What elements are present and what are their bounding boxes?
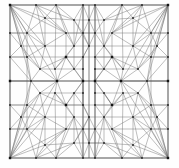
mesh-node bbox=[82, 68, 84, 70]
mesh-node bbox=[82, 32, 84, 34]
mesh-node-hub bbox=[111, 104, 113, 106]
mesh-node bbox=[88, 19, 90, 21]
mesh-node bbox=[20, 45, 22, 47]
mesh-node bbox=[26, 128, 28, 130]
mesh-node bbox=[156, 45, 158, 47]
mesh-node bbox=[94, 92, 96, 94]
mesh-node bbox=[88, 45, 90, 47]
mesh-node bbox=[35, 157, 37, 159]
mesh-node bbox=[39, 92, 41, 94]
mesh-node-hub bbox=[167, 80, 169, 82]
mesh-node-hub bbox=[9, 4, 11, 6]
mesh-node bbox=[141, 4, 143, 6]
mesh-node bbox=[167, 104, 169, 106]
mesh-node bbox=[73, 116, 75, 118]
mesh-node bbox=[9, 56, 11, 58]
mesh-node-hub bbox=[111, 56, 113, 58]
mesh-node bbox=[55, 157, 57, 159]
mesh-node bbox=[103, 92, 105, 94]
mesh-node-hub bbox=[94, 80, 96, 82]
mesh-node-hub bbox=[56, 80, 58, 82]
mesh-node bbox=[26, 32, 28, 34]
mesh-node-hub bbox=[9, 157, 11, 159]
mesh-node bbox=[82, 4, 84, 6]
mesh-node bbox=[54, 92, 56, 94]
mesh-node bbox=[141, 157, 143, 159]
mesh-node bbox=[103, 19, 105, 21]
mesh-node bbox=[35, 4, 37, 6]
mesh-node bbox=[30, 80, 32, 82]
mesh-node bbox=[94, 4, 96, 6]
mesh-node bbox=[82, 157, 84, 159]
mesh-node bbox=[44, 144, 46, 146]
mesh-node bbox=[103, 116, 105, 118]
mesh-node bbox=[73, 19, 75, 21]
mesh-node bbox=[122, 92, 124, 94]
mesh-node bbox=[73, 142, 75, 144]
mesh-node bbox=[82, 104, 84, 106]
mesh-node bbox=[94, 104, 96, 106]
mesh-node bbox=[132, 45, 134, 47]
mesh-node bbox=[146, 80, 148, 82]
mesh-node bbox=[73, 92, 75, 94]
mesh-node bbox=[167, 128, 169, 130]
mesh-node-hub bbox=[167, 157, 169, 159]
mesh-node bbox=[26, 104, 28, 106]
mesh-node bbox=[44, 17, 46, 19]
mesh-node bbox=[39, 68, 41, 70]
mesh-node bbox=[9, 128, 11, 130]
mesh-node bbox=[132, 144, 134, 146]
mesh-node bbox=[94, 32, 96, 34]
mesh-node-hub bbox=[120, 80, 122, 82]
mesh-node bbox=[82, 92, 84, 94]
mesh-node bbox=[82, 128, 84, 130]
mesh-node bbox=[73, 68, 75, 70]
mesh-node bbox=[150, 104, 152, 106]
mesh-node bbox=[94, 157, 96, 159]
mesh-node bbox=[111, 32, 113, 34]
mesh-node bbox=[150, 128, 152, 130]
mesh-node bbox=[121, 4, 123, 6]
mesh-node bbox=[9, 104, 11, 106]
mesh-node bbox=[54, 68, 56, 70]
mesh-node bbox=[65, 128, 67, 130]
mesh-figure bbox=[0, 0, 179, 168]
mesh-node bbox=[156, 116, 158, 118]
mesh-node bbox=[55, 4, 57, 6]
mesh-node bbox=[167, 56, 169, 58]
mesh-node bbox=[103, 68, 105, 70]
mesh-node bbox=[121, 157, 123, 159]
mesh-node bbox=[137, 68, 139, 70]
mesh-node bbox=[44, 116, 46, 118]
mesh-node-hub bbox=[65, 56, 67, 58]
mesh-node bbox=[88, 116, 90, 118]
mesh-node bbox=[103, 142, 105, 144]
mesh-node bbox=[103, 45, 105, 47]
mesh-node bbox=[132, 17, 134, 19]
mesh-node bbox=[137, 92, 139, 94]
mesh-node-hub bbox=[167, 4, 169, 6]
mesh-node bbox=[132, 116, 134, 118]
mesh-node bbox=[26, 56, 28, 58]
mesh-node bbox=[73, 45, 75, 47]
mesh-canvas bbox=[0, 0, 179, 168]
mesh-node bbox=[150, 56, 152, 58]
mesh-node bbox=[122, 68, 124, 70]
mesh-node bbox=[167, 32, 169, 34]
mesh-node bbox=[94, 68, 96, 70]
mesh-node-hub bbox=[9, 80, 11, 82]
mesh-node-hub bbox=[65, 104, 67, 106]
mesh-node bbox=[94, 56, 96, 58]
mesh-node bbox=[82, 56, 84, 58]
mesh-node bbox=[111, 128, 113, 130]
mesh-node bbox=[65, 32, 67, 34]
mesh-node bbox=[44, 45, 46, 47]
mesh-node bbox=[94, 128, 96, 130]
mesh-node bbox=[9, 32, 11, 34]
mesh-node bbox=[20, 116, 22, 118]
mesh-node bbox=[150, 32, 152, 34]
mesh-node bbox=[88, 142, 90, 144]
mesh-node-hub bbox=[82, 80, 84, 82]
